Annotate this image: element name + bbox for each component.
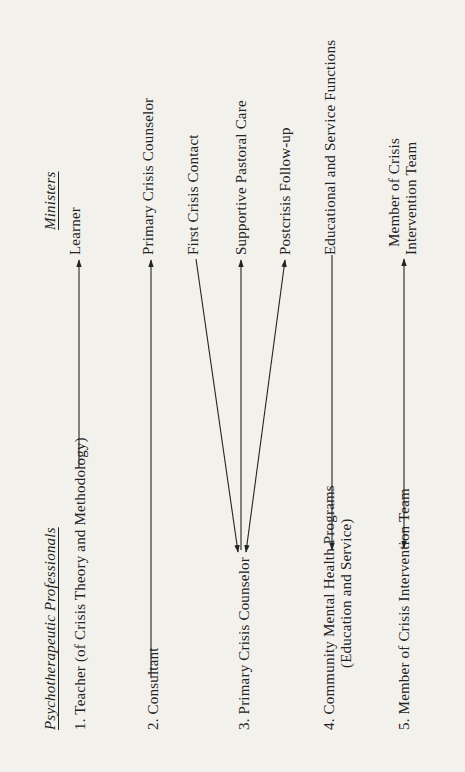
arrow-first-contact-to-counselor [196, 259, 238, 552]
arrow-counselor-to-postcrisis [246, 260, 285, 552]
connection-arrows [0, 0, 465, 772]
rotated-diagram-page: Psychotherapeutic Professionals 1. Teach… [0, 0, 465, 772]
